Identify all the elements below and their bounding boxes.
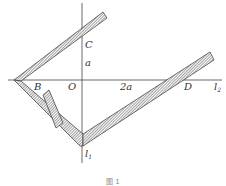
figure-caption: 图 1 — [106, 178, 120, 186]
plate-lower-right — [83, 52, 214, 146]
plate-upper-left — [14, 12, 107, 81]
label-2a: 2a — [119, 81, 132, 92]
label-d: D — [183, 81, 192, 92]
label-l1: l1 — [85, 148, 92, 160]
label-o: O — [68, 81, 76, 92]
label-c: C — [85, 39, 93, 50]
label-l2: l2 — [214, 81, 221, 93]
diagram-canvas: C a B O 2a D l2 l1 图 1 — [0, 0, 226, 186]
label-b: B — [33, 81, 41, 92]
label-a: a — [85, 57, 91, 68]
